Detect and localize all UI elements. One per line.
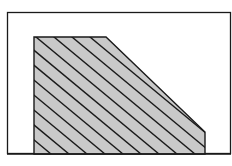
caption (0, 158, 232, 166)
diagram-canvas (0, 0, 232, 166)
